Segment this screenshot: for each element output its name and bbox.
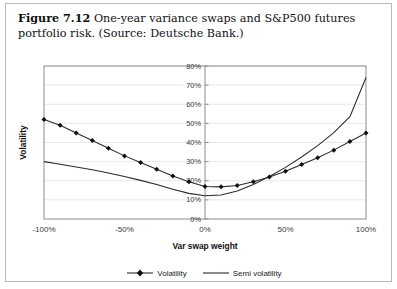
y-axis-title: Volatility [18, 125, 28, 160]
legend-swatch-semi-volatility [203, 268, 229, 278]
svg-text:10%: 10% [186, 195, 201, 204]
svg-text:70%: 70% [186, 81, 201, 90]
figure-page: Figure 7.12 One-year variance swaps and … [0, 0, 397, 289]
x-axis-tick-labels: -100%-50%0%50%100% [32, 225, 376, 234]
svg-text:-100%: -100% [32, 225, 55, 234]
legend-item-semi-volatility: Semi volatility [203, 268, 282, 278]
legend-item-volatility: Volatility [127, 268, 186, 278]
svg-text:100%: 100% [356, 225, 376, 234]
chart-legend: Volatility Semi volatility [6, 262, 397, 284]
svg-text:50%: 50% [186, 119, 201, 128]
svg-text:40%: 40% [186, 138, 201, 147]
x-axis-title: Var swap weight [172, 241, 237, 251]
svg-text:60%: 60% [186, 100, 201, 109]
legend-label-volatility: Volatility [157, 269, 186, 278]
chart-plot-area: 0%10%20%30%40%50%60%70%80% -100%-50%0%50… [16, 56, 388, 256]
legend-swatch-volatility [127, 268, 153, 278]
svg-text:80%: 80% [186, 62, 201, 71]
figure-number: Figure 7.12 [18, 11, 90, 25]
svg-text:30%: 30% [186, 157, 201, 166]
chart-svg: 0%10%20%30%40%50%60%70%80% -100%-50%0%50… [16, 56, 388, 256]
svg-text:0%: 0% [190, 215, 201, 224]
figure-frame: Figure 7.12 One-year variance swaps and … [5, 3, 392, 282]
figure-caption: Figure 7.12 One-year variance swaps and … [18, 11, 388, 41]
svg-text:0%: 0% [199, 225, 211, 234]
svg-text:-50%: -50% [115, 225, 134, 234]
svg-text:50%: 50% [277, 225, 293, 234]
legend-label-semi-volatility: Semi volatility [233, 269, 282, 278]
